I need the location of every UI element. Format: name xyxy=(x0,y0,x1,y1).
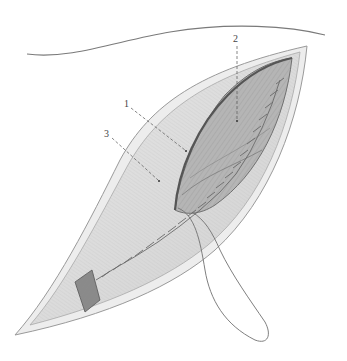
body-contour-line xyxy=(27,26,325,55)
label-3: 3 xyxy=(104,129,109,139)
label-2: 2 xyxy=(233,34,238,44)
label-1: 1 xyxy=(124,99,129,109)
surgical-illustration: 1 2 3 xyxy=(0,0,347,361)
wound-drawing xyxy=(0,0,347,361)
